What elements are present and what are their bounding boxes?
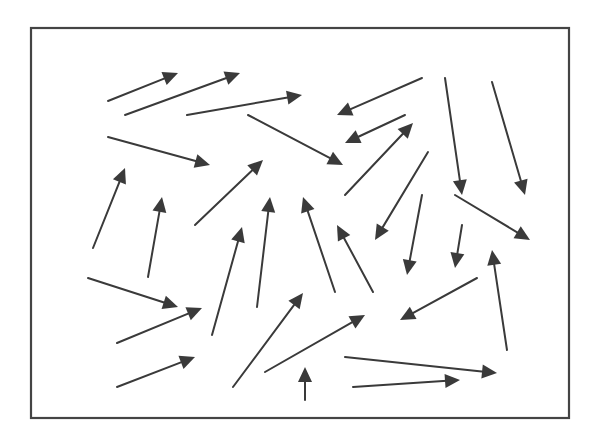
arrow-shaft [117, 362, 183, 387]
arrow-shaft [265, 321, 354, 372]
arrowhead-icon [514, 179, 527, 195]
arrow-shaft [88, 278, 166, 303]
arrow [403, 195, 422, 275]
arrow [93, 168, 126, 248]
arrow [345, 357, 497, 378]
arrow-shaft [248, 115, 331, 159]
arrow-shaft [455, 195, 519, 233]
arrow [88, 278, 178, 309]
arrow [108, 72, 178, 101]
arrow-shaft [382, 152, 428, 229]
arrow-shaft [345, 357, 484, 372]
arrowhead-icon [481, 364, 497, 378]
arrow-shaft [257, 210, 268, 307]
arrowhead-icon [301, 197, 314, 213]
arrowhead-icon [403, 259, 417, 275]
arrow [298, 367, 312, 400]
arrow [248, 115, 343, 165]
arrowhead-icon [224, 72, 240, 85]
arrowhead-icon [288, 293, 303, 309]
arrowhead-icon [349, 315, 365, 329]
arrow-shaft [212, 240, 239, 335]
arrowhead-icon [445, 374, 460, 388]
arrowhead-icon [514, 226, 530, 240]
arrow [195, 160, 263, 225]
arrow-shaft [195, 169, 254, 225]
arrowhead-icon [153, 197, 167, 213]
arrow [257, 197, 275, 307]
arrowhead-icon [231, 227, 244, 243]
arrow-shaft [108, 78, 166, 101]
arrow-shaft [492, 82, 521, 183]
arrow-shaft [307, 209, 335, 292]
arrow [455, 195, 530, 240]
arrow [108, 137, 210, 168]
arrow-shaft [125, 77, 228, 115]
arrow [148, 197, 166, 277]
arrowhead-icon [487, 250, 501, 266]
arrowhead-icon [162, 296, 178, 309]
arrow [345, 115, 405, 143]
arrow-shaft [187, 97, 289, 115]
arrow [337, 78, 422, 115]
arrow-shaft [233, 303, 295, 387]
arrow-shaft [108, 137, 197, 162]
arrow [187, 91, 302, 115]
arrow-shaft [353, 381, 447, 387]
arrow-shaft [411, 278, 477, 314]
arrow [353, 374, 460, 388]
arrow [233, 293, 303, 387]
arrowhead-icon [375, 224, 389, 240]
arrow [375, 152, 428, 240]
arrow [117, 307, 202, 343]
arrow [212, 227, 245, 335]
arrow-shaft [409, 195, 422, 262]
arrow [400, 278, 477, 320]
arrowhead-icon [286, 91, 302, 105]
arrow [487, 250, 507, 350]
arrowhead-icon [298, 367, 312, 382]
arrow [451, 225, 465, 268]
arrow [445, 78, 467, 195]
arrowhead-icon [194, 154, 210, 168]
arrow-shaft [117, 313, 190, 343]
arrow-shaft [349, 78, 422, 110]
arrow-shaft [148, 210, 160, 277]
diagram-frame [31, 28, 569, 418]
arrow [337, 225, 373, 292]
arrow-field-diagram [0, 0, 598, 437]
arrow-shaft [93, 180, 120, 248]
arrow-shaft [357, 115, 405, 138]
arrow-shaft [445, 78, 460, 182]
arrow [492, 82, 528, 195]
arrow-group [88, 72, 530, 400]
arrow [301, 197, 335, 292]
arrow-shaft [457, 225, 462, 255]
arrowhead-icon [453, 179, 467, 195]
arrow-shaft [343, 236, 373, 292]
arrow-shaft [494, 263, 507, 350]
arrowhead-icon [261, 197, 275, 213]
arrow [117, 356, 195, 387]
arrowhead-icon [451, 252, 465, 268]
